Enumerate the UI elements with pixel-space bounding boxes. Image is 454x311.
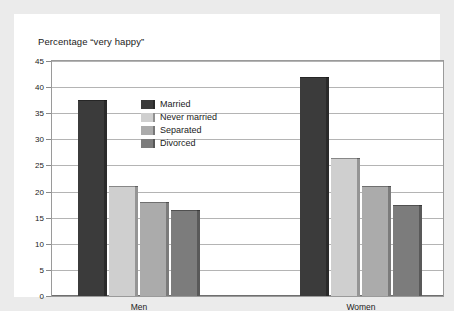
bar-face: [362, 186, 388, 296]
gridline-45: [52, 61, 443, 62]
legend-swatch-edge: [153, 113, 155, 122]
bar: [331, 158, 360, 296]
bar-face: [140, 202, 166, 296]
bar-side-edge: [104, 100, 107, 296]
legend-item: Married: [141, 98, 217, 110]
legend-swatch-icon: [141, 126, 155, 135]
bar-side-edge: [419, 205, 422, 296]
y-axis-tick: [46, 165, 51, 166]
bar-top-edge: [109, 186, 138, 187]
legend-item: Never married: [141, 111, 217, 123]
bar: [140, 202, 169, 296]
bar-side-edge: [135, 186, 138, 296]
x-axis-group-label: Men: [131, 302, 148, 311]
y-axis-tick: [46, 113, 51, 114]
plot-area: [51, 60, 444, 297]
bar-top-edge: [362, 186, 391, 187]
legend-swatch-face: [141, 113, 153, 122]
legend-swatch-icon: [141, 100, 155, 109]
y-axis-tick-label: 40: [22, 83, 44, 92]
legend-swatch-edge: [153, 126, 155, 135]
bar: [300, 77, 329, 296]
y-axis-tick: [46, 218, 51, 219]
y-axis-tick-label: 25: [22, 161, 44, 170]
legend-item: Divorced: [141, 137, 217, 149]
bar-side-edge: [166, 202, 169, 296]
bar-top-edge: [78, 100, 107, 101]
y-axis-tick: [46, 270, 51, 271]
bar-face: [393, 205, 419, 296]
y-axis-tick-label: 20: [22, 187, 44, 196]
x-axis-group-label: Women: [346, 302, 375, 311]
bar-top-edge: [331, 158, 360, 159]
legend-swatch-icon: [141, 139, 155, 148]
chart-legend: MarriedNever marriedSeparatedDivorced: [141, 98, 217, 149]
legend-swatch-edge: [153, 100, 155, 109]
legend-label: Never married: [160, 112, 217, 122]
legend-swatch-edge: [153, 139, 155, 148]
legend-swatch-face: [141, 100, 153, 109]
legend-label: Married: [160, 99, 191, 109]
chart-title: Percentage “very happy”: [38, 36, 144, 47]
bar-face: [331, 158, 357, 296]
legend-swatch-face: [141, 139, 153, 148]
y-axis-tick: [46, 296, 51, 297]
plot-inner: [52, 61, 443, 296]
gridline-30: [52, 139, 443, 140]
y-axis-tick: [46, 244, 51, 245]
bar-top-edge: [300, 77, 329, 78]
y-axis-tick: [46, 87, 51, 88]
bar-side-edge: [357, 158, 360, 296]
legend-item: Separated: [141, 124, 217, 136]
y-axis-tick: [46, 139, 51, 140]
bar-top-edge: [393, 205, 422, 206]
y-axis-tick-label: 30: [22, 135, 44, 144]
legend-label: Divorced: [160, 138, 196, 148]
bar: [78, 100, 107, 296]
bar-face: [171, 210, 197, 296]
y-axis-tick: [46, 192, 51, 193]
y-axis-tick-label: 10: [22, 239, 44, 248]
bar: [393, 205, 422, 296]
bar-face: [109, 186, 135, 296]
bar-side-edge: [197, 210, 200, 296]
bar-top-edge: [171, 210, 200, 211]
y-axis-tick-label: 0: [22, 292, 44, 301]
legend-label: Separated: [160, 125, 202, 135]
bar-side-edge: [326, 77, 329, 296]
y-axis-tick-label: 45: [22, 57, 44, 66]
bar-face: [300, 77, 326, 296]
gridline-35: [52, 113, 443, 114]
legend-swatch-icon: [141, 113, 155, 122]
chart-card: Percentage “very happy” 0510152025303540…: [14, 14, 440, 297]
bar-top-edge: [140, 202, 169, 203]
gridline-25: [52, 165, 443, 166]
y-axis-tick-label: 15: [22, 213, 44, 222]
y-axis-tick-label: 5: [22, 265, 44, 274]
bar-face: [78, 100, 104, 296]
y-axis-tick: [46, 61, 51, 62]
legend-swatch-face: [141, 126, 153, 135]
bar-side-edge: [388, 186, 391, 296]
bar: [362, 186, 391, 296]
gridline-40: [52, 87, 443, 88]
bar: [109, 186, 138, 296]
chart-figure: Percentage “very happy” 0510152025303540…: [0, 0, 454, 311]
y-axis-tick-label: 35: [22, 109, 44, 118]
bar: [171, 210, 200, 296]
